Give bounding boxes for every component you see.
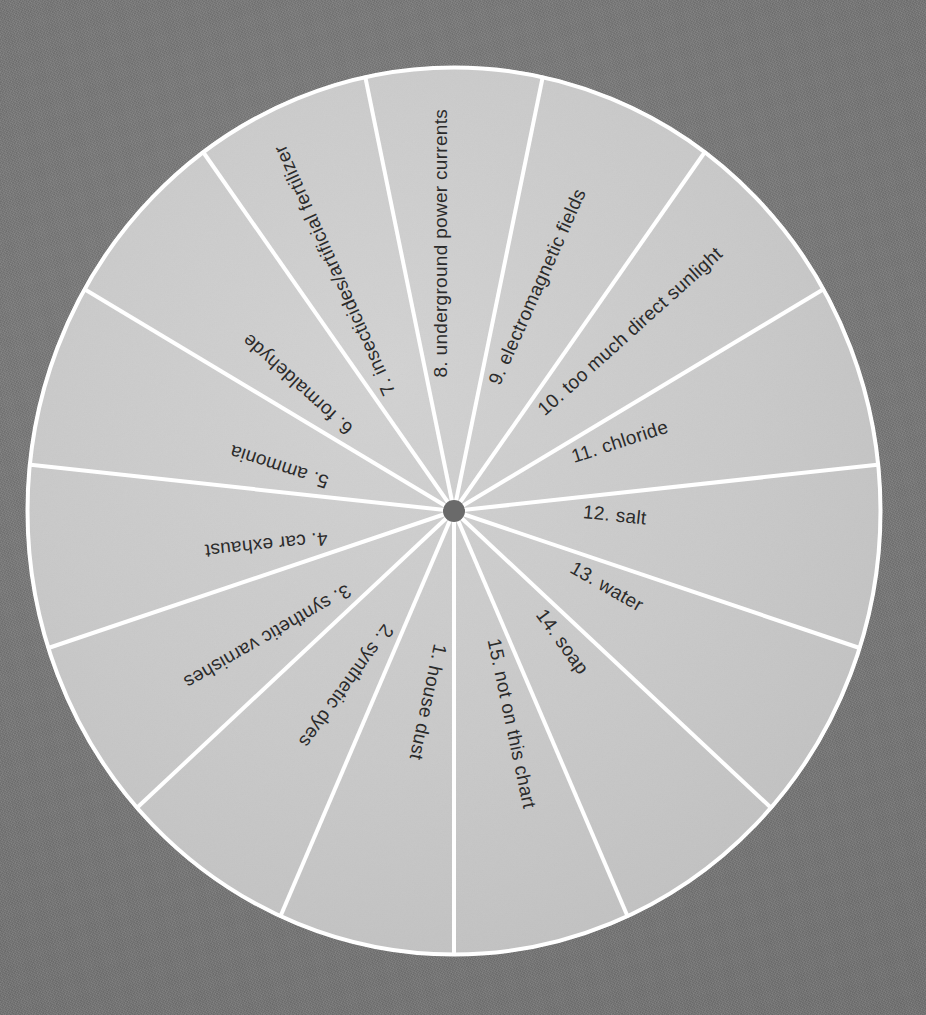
wheel-hub — [443, 500, 465, 522]
pie-wheel-chart: 1. house dust2. synthetic dyes3. synthet… — [0, 0, 926, 1015]
hub-circle — [443, 500, 465, 522]
chart-canvas: 1. house dust2. synthetic dyes3. synthet… — [0, 0, 926, 1015]
slice-label: 8. underground power currents — [430, 109, 451, 378]
slice-label-text: 8. underground power currents — [430, 109, 451, 378]
